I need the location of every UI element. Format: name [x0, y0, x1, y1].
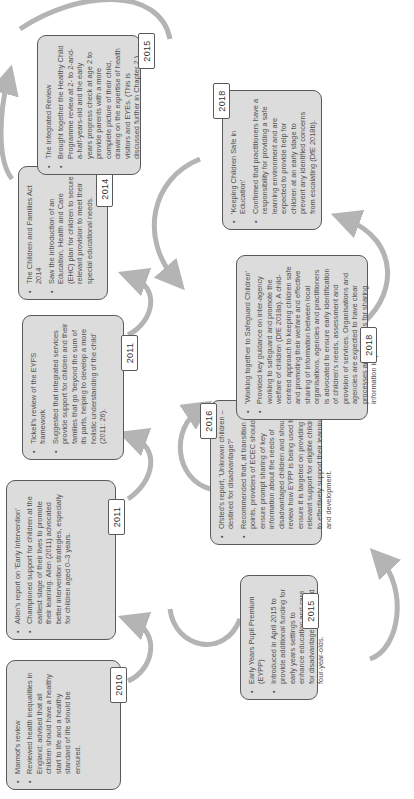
year-label-2016: 2016 — [200, 403, 217, 439]
card-tickell-review: Tickell's review of the EYFS framework S… — [22, 315, 124, 460]
year-label-2011-allen: 2011 — [108, 499, 125, 535]
card-detail: Recommended that, at transition points, … — [239, 408, 334, 538]
loop-arrow — [154, 159, 200, 279]
card-detail: Suggested that integrated services provi… — [51, 323, 108, 453]
card-heading: The Integrated Review — [44, 43, 53, 168]
arrow-2015-2016 — [370, 559, 397, 659]
card-detail: Brought together the Healthy Child Progr… — [56, 43, 141, 168]
card-keeping-children-safe: 'Keeping Children Safe in Education' Con… — [222, 90, 322, 230]
card-detail: Championed support for children at the e… — [25, 488, 72, 633]
card-heading: The Children and Families Act 2014 — [25, 174, 44, 293]
card-children-families-act: The Children and Families Act 2014 Saw t… — [18, 166, 108, 300]
year-label-2018-kcsie: 2018 — [213, 83, 230, 119]
arrow-2011-2014 — [128, 277, 151, 335]
arrow-2014-2015 — [1, 79, 12, 179]
arrow-2011-2011 — [128, 437, 151, 499]
year-label-2015-integrated: 2015 — [138, 33, 155, 69]
year-label-2011-tickell: 2011 — [121, 335, 138, 371]
card-heading: 'Keeping Children Safe in Education' — [229, 98, 248, 223]
card-detail: Saw the introduction of an Education, He… — [47, 174, 94, 293]
card-detail: Reviewed health inequalities in England;… — [25, 668, 82, 783]
year-label-2010: 2010 — [110, 667, 127, 703]
card-marmot-review: Marmot's review Reviewed health inequali… — [6, 660, 121, 790]
card-heading: 'Working together to Safeguard Children' — [243, 263, 252, 413]
card-detail: Confirmed that practitioners have a resp… — [251, 98, 317, 223]
card-integrated-review: The Integrated Review Brought together t… — [37, 35, 141, 175]
card-working-together: 'Working together to Safeguard Children'… — [236, 255, 368, 420]
card-heading: Allen's report on 'Early Intervention' — [13, 488, 22, 633]
card-heading: Marmot's review — [13, 668, 22, 783]
year-label-2014: 2014 — [96, 171, 113, 207]
card-allen-report: Allen's report on 'Early Intervention' C… — [6, 480, 116, 640]
loop-arc — [170, 609, 240, 644]
card-heading: Tickell's review of the EYFS framework — [29, 323, 48, 453]
card-heading: Early Years Pupil Premium (EYPP) — [247, 583, 266, 693]
timeline-diagram: Marmot's review Reviewed health inequali… — [0, 0, 414, 799]
card-heading: Ofsted's report, 'Unknown children – des… — [217, 408, 236, 538]
arrow-2010-2011 — [128, 621, 151, 681]
card-ofsted-report: Ofsted's report, 'Unknown children – des… — [210, 400, 322, 545]
year-label-2015-eypp: 2015 — [302, 593, 319, 629]
year-label-2018-working-together: 2018 — [360, 327, 377, 363]
